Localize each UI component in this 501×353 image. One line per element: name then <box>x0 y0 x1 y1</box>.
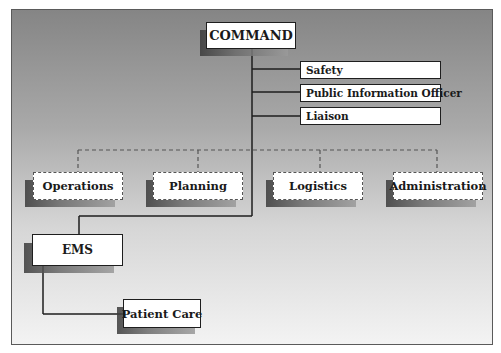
staff-box-liaison: Liaison <box>300 107 441 125</box>
staff-label: Public Information Officer <box>306 87 462 99</box>
section-box-logistics: Logistics <box>273 172 363 200</box>
staff-box-public-information-officer: Public Information Officer <box>300 84 441 102</box>
section-box-administration: Administration <box>393 172 483 200</box>
staff-label: Liaison <box>306 110 349 122</box>
staff-label: Safety <box>306 64 343 76</box>
section-label: Planning <box>169 179 227 193</box>
patient-care-box: Patient Care <box>123 299 201 328</box>
ems-box: EMS <box>32 234 123 266</box>
section-label: Logistics <box>289 179 347 193</box>
staff-box-safety: Safety <box>300 61 441 79</box>
command-label: COMMAND <box>209 28 293 43</box>
command-box: COMMAND <box>206 22 296 49</box>
section-box-planning: Planning <box>153 172 243 200</box>
patient-care-label: Patient Care <box>122 307 202 321</box>
section-label: Administration <box>389 179 486 193</box>
ems-label: EMS <box>62 243 93 257</box>
section-label: Operations <box>42 179 113 193</box>
section-box-operations: Operations <box>33 172 123 200</box>
